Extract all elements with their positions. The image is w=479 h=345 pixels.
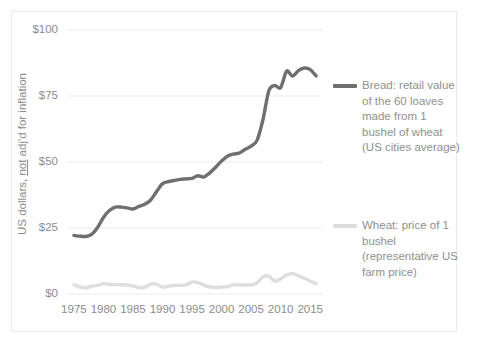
legend-label-line: of the 60 loaves <box>362 94 479 110</box>
y-axis-title-underlined: not <box>16 160 28 176</box>
chart-container: $0$25$50$75$100 197519801985199019952000… <box>0 0 479 345</box>
series-line-bread <box>74 68 316 237</box>
x-axis-tick-label: 2015 <box>290 303 330 315</box>
y-axis-title-after: adj'd for inflation <box>16 73 28 160</box>
legend-label-line: (representative US <box>362 249 479 265</box>
legend-label-wheat: Wheat: price of 1bushel(representative U… <box>362 218 479 280</box>
gridlines <box>68 30 322 294</box>
legend-swatch-bread <box>333 84 357 88</box>
chart-plot-area <box>0 0 479 345</box>
legend-swatch-wheat <box>333 224 357 228</box>
legend-entry-wheat[interactable]: Wheat: price of 1bushel(representative U… <box>333 218 479 280</box>
legend-label-line: farm price) <box>362 265 479 281</box>
y-axis-title: US dollars, not adj'd for inflation <box>16 54 28 254</box>
y-axis-tick-label: $100 <box>16 23 58 35</box>
legend-label-line: made from 1 <box>362 109 479 125</box>
y-axis-title-before: US dollars, <box>16 176 28 235</box>
legend-label-line: (US cities average) <box>362 140 479 156</box>
legend-label-line: Wheat: price of 1 <box>362 218 479 234</box>
legend-entry-bread[interactable]: Bread: retail valueof the 60 loavesmade … <box>333 78 479 156</box>
legend-label-bread: Bread: retail valueof the 60 loavesmade … <box>362 78 479 156</box>
y-axis-tick-label: $0 <box>16 287 58 299</box>
legend-label-line: bushel <box>362 234 479 250</box>
series-line-wheat <box>74 273 316 287</box>
legend-label-line: Bread: retail value <box>362 78 479 94</box>
legend-label-line: bushel of wheat <box>362 125 479 141</box>
